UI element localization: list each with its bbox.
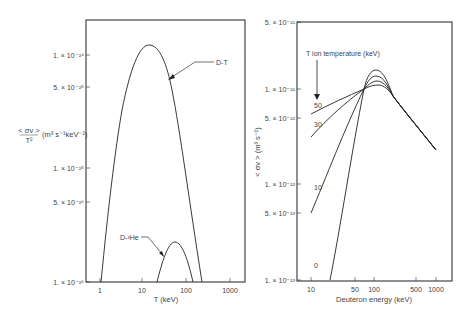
right-x-axis-label: Deuteron energy (keV) (336, 295, 412, 304)
dhe3-label: D-³He (120, 234, 139, 241)
left-ytick-label: 1. × 10⁻²⁵ (53, 165, 84, 172)
right-y-axis-label: < σv > (m³ s⁻¹) (253, 127, 262, 177)
series-label-0: 0 (314, 262, 318, 269)
right-x-ticks: 10 50 100 500 1000 (307, 277, 444, 293)
dhe3-curve (157, 242, 193, 282)
series-label-50: 50 (314, 102, 322, 109)
right-ytick-label: 1. × 10⁻²³ (265, 277, 296, 284)
left-chart: 1. × 10⁻²⁴ 5. × 10⁻²⁵ 1. × 10⁻²⁵ 5. × 10… (18, 20, 245, 304)
left-ylabel-denominator: T² (25, 136, 33, 145)
figure: 1. × 10⁻²⁴ 5. × 10⁻²⁵ 1. × 10⁻²⁵ 5. × 10… (0, 0, 468, 313)
right-xtick-label: 100 (368, 286, 380, 293)
right-y-ticks: 5. × 10⁻²¹ 1. × 10⁻²¹ 5. × 10⁻²² 1. × 10… (265, 19, 301, 284)
left-xtick-label: 1 (98, 287, 102, 294)
right-xtick-label: 10 (307, 286, 315, 293)
right-ytick-label: 5. × 10⁻²¹ (265, 19, 296, 26)
curve-t30 (311, 81, 436, 150)
right-ytick-label: 5. × 10⁻²³ (265, 210, 296, 217)
left-ytick-label: 1. × 10⁻²⁶ (53, 279, 84, 286)
right-ytick-label: 5. × 10⁻²² (265, 115, 296, 122)
left-x-ticks: 1 10 100 1000 (98, 278, 238, 294)
left-xtick-label: 1000 (222, 287, 238, 294)
right-plot-frame (297, 22, 452, 281)
right-xtick-label: 500 (410, 286, 422, 293)
series-label-30: 30 (314, 121, 322, 128)
left-ytick-label: 5. × 10⁻²⁵ (53, 84, 84, 91)
curve-t10 (311, 76, 436, 213)
right-xtick-label: 1000 (428, 286, 444, 293)
dhe3-arrow-icon (159, 251, 164, 257)
left-y-ticks: 1. × 10⁻²⁴ 5. × 10⁻²⁵ 1. × 10⁻²⁵ 5. × 10… (53, 52, 90, 286)
left-x-axis-label: T (keV) (154, 295, 179, 304)
left-ytick-label: 1. × 10⁻²⁴ (53, 52, 84, 59)
series-label-10: 10 (314, 184, 322, 191)
left-xtick-label: 10 (138, 287, 146, 294)
right-ytick-label: 1. × 10⁻²¹ (265, 86, 296, 93)
right-chart: 5. × 10⁻²¹ 1. × 10⁻²¹ 5. × 10⁻²² 1. × 10… (253, 19, 452, 304)
left-xtick-label: 100 (180, 287, 192, 294)
dt-curve (101, 45, 202, 282)
curve-t0 (330, 70, 436, 280)
dhe3-leader-line (141, 237, 163, 255)
arrow-down-icon (314, 94, 320, 100)
right-xtick-label: 50 (351, 286, 359, 293)
left-ytick-label: 5. × 10⁻²⁶ (53, 199, 84, 206)
left-y-axis-label: < σv > T² (m³ s⁻¹keV⁻²) (18, 126, 88, 145)
dt-leader-line (169, 62, 214, 79)
legend-title: T ion temperature (keV) (306, 50, 380, 58)
left-ylabel-units: (m³ s⁻¹keV⁻²) (42, 130, 88, 139)
left-ylabel-numerator: < σv > (18, 126, 40, 135)
dt-label: D-T (216, 59, 228, 66)
right-ytick-label: 1. × 10⁻²² (265, 181, 296, 188)
